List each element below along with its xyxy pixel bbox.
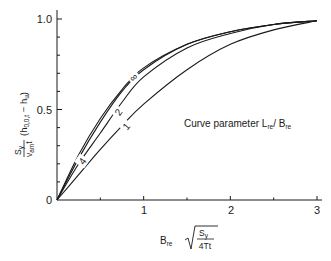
curve-parameter-annotation: Curve parameter Lre/ Bre xyxy=(184,118,292,130)
y-tick-label-0.5: 0.5 xyxy=(37,104,52,116)
svg-text:4Tt: 4Tt xyxy=(199,241,212,251)
curve-label-1: 1 xyxy=(118,118,134,133)
axis-ticks xyxy=(57,19,317,200)
svg-text:(h0,0,t − hu): (h0,0,t − hu) xyxy=(18,92,30,136)
x-tick-label-2: 2 xyxy=(228,204,234,216)
svg-text:vamt: vamt xyxy=(24,141,35,157)
y-tick-label-1.0: 1.0 xyxy=(37,13,52,25)
curve-2 xyxy=(57,21,317,200)
curve-label-2: 2 xyxy=(110,104,126,119)
x-tick-label-1: 1 xyxy=(141,204,147,216)
chart-figure: 0 0.5 1.0 1 2 3 ∞ 2 1 4 Curve parameter … xyxy=(0,0,331,261)
svg-text:Bre: Bre xyxy=(160,235,173,247)
x-axis-label: Bre Sy 4Tt xyxy=(160,226,218,251)
y-tick-label-0: 0 xyxy=(46,194,52,206)
y-axis-label: Sy vamt (h0,0,t − hu) xyxy=(13,92,35,157)
svg-text:Sy: Sy xyxy=(199,228,209,240)
curve-group xyxy=(57,21,317,200)
x-tick-label-3: 3 xyxy=(314,204,320,216)
